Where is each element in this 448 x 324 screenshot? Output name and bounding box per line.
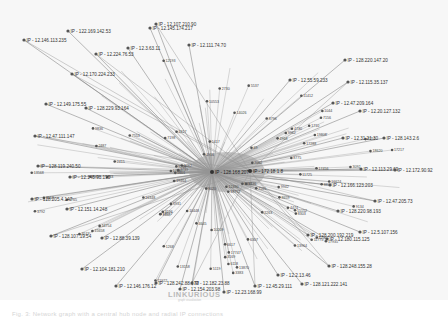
ip-node[interactable]: IP - 128.143.2.6 [382, 136, 419, 141]
svg-text:19557: 19557 [163, 212, 173, 216]
minor-node[interactable]: 3169 [224, 255, 235, 259]
minor-node[interactable]: 7553 [128, 134, 139, 138]
minor-node[interactable]: 1268 [162, 245, 173, 249]
minor-node[interactable]: 6118 [227, 262, 238, 266]
ip-node[interactable]: IP - 12.172.90.92 [393, 168, 433, 173]
ip-node[interactable]: IP - 12.146.176.12 [114, 284, 156, 289]
minor-node[interactable]: 5931 [170, 202, 181, 206]
minor-node[interactable]: 11725 [299, 173, 312, 177]
minor-node[interactable]: 13964 [294, 244, 307, 248]
minor-node[interactable]: 3417 [175, 130, 186, 134]
minor-node[interactable]: 15658 [91, 229, 104, 233]
svg-text:3417: 3417 [179, 130, 187, 134]
minor-node[interactable]: 14026 [233, 111, 246, 115]
minor-node[interactable]: 9942 [277, 185, 288, 189]
minor-node[interactable]: 17747 [228, 251, 241, 255]
node-icon [346, 80, 349, 83]
secondary-hub-node[interactable]: IP - 172.18.1.8 [248, 169, 283, 174]
ip-node[interactable]: IP - 122.169.142.53 [66, 29, 111, 34]
ip-node[interactable]: IP - 12.55.59.233 [288, 78, 328, 83]
ip-node[interactable]: IP - 12.224.76.53 [94, 52, 134, 57]
minor-node[interactable]: 13568 [30, 171, 43, 175]
minor-node[interactable]: 2730 [218, 87, 229, 91]
node-icon [66, 29, 69, 32]
ip-node[interactable]: IP - 12.23.168.99 [222, 290, 262, 295]
minor-node[interactable]: 8659 [278, 196, 289, 200]
minor-node[interactable]: 7156 [320, 116, 331, 120]
graph-canvas[interactable]: 2319175871315831691879237923417661716024… [0, 0, 448, 300]
minor-node[interactable]: 6307 [247, 238, 258, 242]
node-label: IP - 12.145.174.217 [153, 26, 194, 31]
ip-node[interactable]: IP - 128.107.19.54 [49, 234, 91, 239]
ip-node[interactable]: IP - 12.2.13.46 [276, 273, 311, 278]
ip-node[interactable]: IP - 12.111.74.70 [187, 43, 226, 48]
ip-node[interactable]: IP - 12.47.111.147 [33, 134, 75, 139]
network-graph[interactable]: 2319175871315831691879237923417661716024… [0, 0, 448, 300]
ip-node[interactable]: IP - 12.182.23.88 [190, 281, 230, 286]
minor-node[interactable]: 10553 [206, 100, 219, 104]
node-icon [80, 267, 83, 270]
svg-text:6118: 6118 [230, 262, 238, 266]
minor-node[interactable]: 19808 [314, 133, 327, 137]
minor-node[interactable]: 10209 [210, 228, 223, 232]
minor-node[interactable]: 19464 [173, 179, 186, 183]
node-label: IP - 12.113.29.69 [364, 167, 399, 172]
minor-node[interactable]: 3092 [349, 165, 360, 169]
minor-node[interactable]: 11412 [300, 94, 313, 98]
minor-node[interactable]: 2263 [261, 211, 272, 215]
svg-text:2730: 2730 [222, 87, 230, 91]
node-icon [331, 101, 334, 104]
ip-node[interactable]: IP - 128.119.240.50 [36, 164, 80, 169]
minor-node[interactable]: 5119 [209, 267, 220, 271]
ip-node[interactable]: IP - 12.145.93.195 [68, 175, 110, 180]
ip-node[interactable]: IP - 128.229.93.164 [84, 106, 129, 111]
ip-node[interactable]: IP - 128.220.98.193 [336, 209, 381, 214]
minor-node[interactable]: 6617 [224, 243, 235, 247]
ip-node[interactable]: IP - 12.145.174.217 [148, 26, 193, 31]
ip-node[interactable]: IP - 128.205.4.147 [30, 197, 72, 202]
ip-node[interactable]: IP - 12.151.14.248 [65, 207, 107, 212]
minor-node[interactable]: 4968 [276, 137, 287, 141]
hub-node[interactable]: IP - 128.168.207 [210, 170, 249, 175]
minor-node[interactable]: 3792 [34, 210, 45, 214]
ip-node[interactable]: IP - 12.20.127.132 [358, 109, 400, 114]
ip-node[interactable]: IP - 12.5.107.156 [358, 230, 398, 235]
ip-node[interactable]: IP - 128.220.147.20 [343, 58, 388, 63]
svg-text:18620: 18620 [372, 149, 382, 153]
ip-node[interactable]: IP - 12.104.181.210 [80, 267, 125, 272]
ip-node[interactable]: IP - 12.31.21.30 [341, 136, 378, 141]
ip-node[interactable]: IP - 12.180.115.125 [325, 237, 369, 242]
minor-node[interactable]: 19557 [159, 212, 172, 216]
ip-node[interactable]: IP - 12.45.29.111 [253, 284, 292, 289]
svg-text:11412: 11412 [303, 94, 313, 98]
minor-node[interactable]: 13158 [177, 265, 190, 269]
ip-node[interactable]: IP - 12.115.35.137 [346, 80, 388, 85]
minor-node[interactable]: 9836 [92, 127, 103, 131]
minor-node[interactable]: 18620 [369, 149, 382, 153]
ip-node[interactable]: IP - 12.47.209.164 [331, 101, 373, 106]
minor-node[interactable]: 17217 [391, 148, 404, 152]
ip-node[interactable]: IP - 12.88.39.139 [100, 236, 140, 241]
ip-node[interactable]: IP - 12.3.63.11 [126, 46, 160, 51]
minor-node[interactable]: 8775 [290, 156, 301, 160]
minor-node[interactable]: 2415 [113, 160, 124, 164]
minor-node[interactable]: 3383 [232, 271, 243, 275]
ip-node[interactable]: IP - 12.113.29.69 [359, 167, 398, 172]
svg-text:16348: 16348 [145, 196, 155, 200]
minor-node[interactable]: 1044 [321, 109, 332, 113]
minor-node[interactable]: 5537 [247, 84, 258, 88]
ip-node[interactable]: IP - 12.170.224.233 [70, 72, 115, 77]
minor-node[interactable]: 9962 [284, 131, 295, 135]
minor-node[interactable]: 11775 [310, 238, 323, 242]
ip-node[interactable]: IP - 12.149.175.55 [44, 102, 86, 107]
minor-node[interactable]: 13870 [236, 266, 249, 270]
minor-node[interactable]: 5417 [209, 140, 220, 144]
minor-node[interactable]: 1710 [308, 124, 319, 128]
ip-node[interactable]: IP - 12.166.123.203 [328, 183, 373, 188]
minor-node[interactable]: 14754 [98, 224, 111, 228]
ip-node[interactable]: IP - 128.248.155.28 [327, 264, 372, 269]
ip-node[interactable]: IP - 12.146.113.235 [22, 38, 66, 43]
ip-node[interactable]: IP - 12.47.205.73 [373, 199, 413, 204]
minor-node[interactable]: 4645 [195, 222, 206, 226]
ip-node[interactable]: IP - 128.121.222.141 [300, 282, 347, 287]
